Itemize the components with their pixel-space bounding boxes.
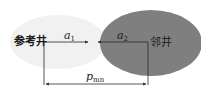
distance-label: pmn <box>86 71 104 84</box>
adjacent-well-label: 邻井 <box>150 37 172 48</box>
a1-label: a1 <box>64 30 75 43</box>
well-diagram: 参考井 邻井 a1 a2 pmn <box>0 0 201 94</box>
reference-well-label: 参考井 <box>14 36 47 47</box>
a2-label: a2 <box>117 30 128 43</box>
